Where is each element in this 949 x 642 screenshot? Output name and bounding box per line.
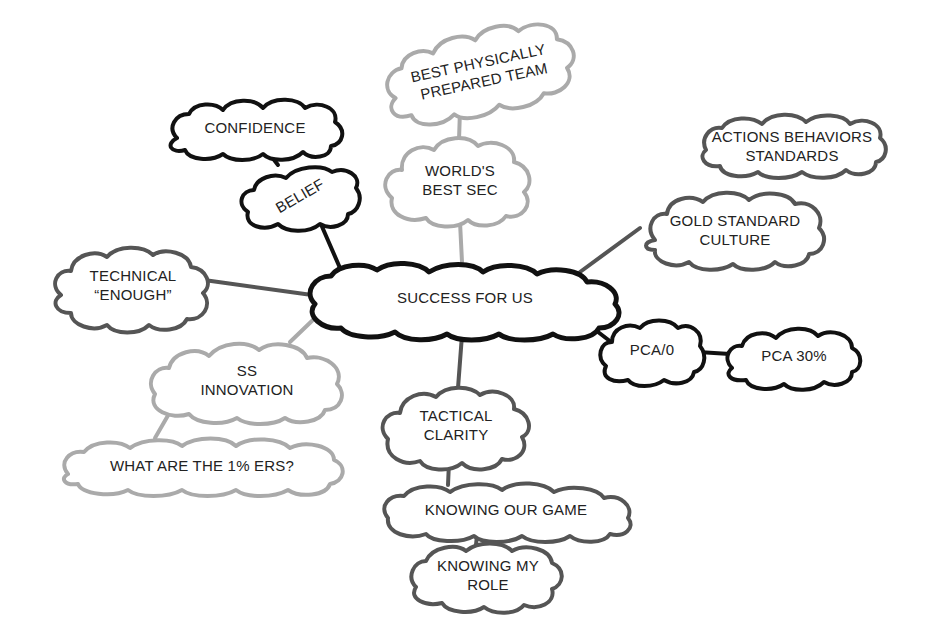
node-label: CLARITY xyxy=(424,426,489,443)
edge-success-tactical-clarity xyxy=(458,335,462,388)
edge-success-gold-standard xyxy=(580,228,640,272)
node-label: GOLD STANDARD xyxy=(670,212,801,229)
node-technical-enough[interactable]: TECHNICAL “ENOUGH” xyxy=(55,248,208,333)
node-label: ACTIONS BEHAVIORS xyxy=(712,128,873,145)
node-label: INNOVATION xyxy=(200,381,293,398)
edge-success-technical-enough xyxy=(204,280,312,295)
node-label: TACTICAL xyxy=(420,407,493,424)
node-label: WHAT ARE THE 1% ERS? xyxy=(110,457,294,474)
node-worlds-best-sec[interactable]: WORLD'S BEST SEC xyxy=(385,138,529,226)
node-best-physically-prepared-team[interactable]: BEST PHYSICALLY PREPARED TEAM xyxy=(379,12,582,134)
node-label: CULTURE xyxy=(699,231,770,248)
node-label: ROLE xyxy=(467,576,509,593)
edge-success-worlds-best-sec xyxy=(460,222,462,262)
node-label: SS xyxy=(237,362,257,379)
node-knowing-my-role[interactable]: KNOWING MY ROLE xyxy=(411,544,561,613)
node-label: “ENOUGH” xyxy=(94,286,171,303)
node-ss-innovation[interactable]: SS INNOVATION xyxy=(151,344,342,424)
edge-success-ss-innovation xyxy=(290,318,315,342)
node-pca0[interactable]: PCA/0 xyxy=(600,321,704,387)
node-what-are-the-1-percenters[interactable]: WHAT ARE THE 1% ERS? xyxy=(64,439,343,497)
node-label: CONFIDENCE xyxy=(204,119,305,136)
node-actions-behaviors-standards[interactable]: ACTIONS BEHAVIORS STANDARDS xyxy=(702,115,885,178)
node-label: KNOWING MY xyxy=(437,557,539,574)
node-success-for-us[interactable]: SUCCESS FOR US xyxy=(310,263,619,340)
node-label: PCA/0 xyxy=(630,341,674,358)
node-confidence[interactable]: CONFIDENCE xyxy=(171,100,343,160)
node-tactical-clarity[interactable]: TACTICAL CLARITY xyxy=(383,388,529,470)
center-label: SUCCESS FOR US xyxy=(397,289,533,306)
node-label: STANDARDS xyxy=(745,147,838,164)
node-label: TECHNICAL xyxy=(90,267,177,284)
node-label: KNOWING OUR GAME xyxy=(425,501,587,518)
node-knowing-our-game[interactable]: KNOWING OUR GAME xyxy=(384,483,630,542)
node-pca30[interactable]: PCA 30% xyxy=(727,329,860,390)
node-gold-standard-culture[interactable]: GOLD STANDARD CULTURE xyxy=(646,193,824,270)
mind-map-canvas: BEST PHYSICALLY PREPARED TEAM WORLD'S BE… xyxy=(0,0,949,642)
node-label: BEST SEC xyxy=(422,181,498,198)
node-label: WORLD'S xyxy=(425,162,495,179)
node-belief[interactable]: BELIEF xyxy=(241,167,359,231)
node-label: PCA 30% xyxy=(761,347,827,364)
